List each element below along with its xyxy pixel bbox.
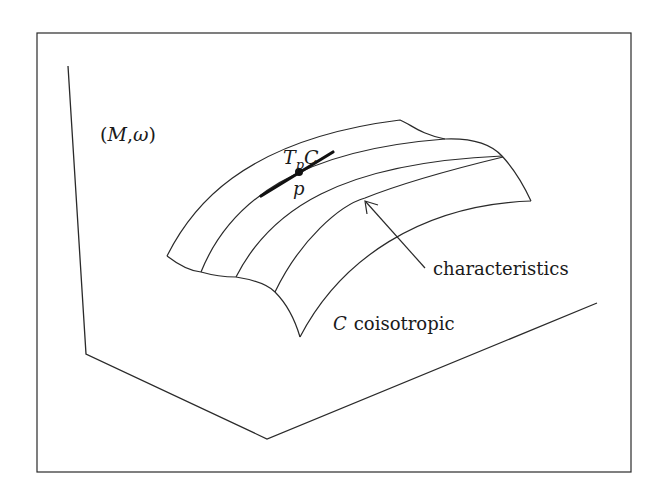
figure-frame [37,33,631,472]
characteristics-label: characteristics [433,258,569,279]
coisotropic-diagram: (M,ω) TpC p characteristics Ccoisotropic [0,0,658,494]
characteristics-arrow [366,202,425,268]
manifold-label: (M,ω) [100,123,156,145]
surface-top-edge [167,120,445,256]
coisotropic-label: Ccoisotropic [333,313,455,334]
manifold-floor-outline [68,66,597,439]
surface-front-edge [167,256,300,337]
surface-back-edge [445,139,531,201]
tangent-space-label: TpC [283,146,319,172]
point-p-label: p [293,178,305,199]
